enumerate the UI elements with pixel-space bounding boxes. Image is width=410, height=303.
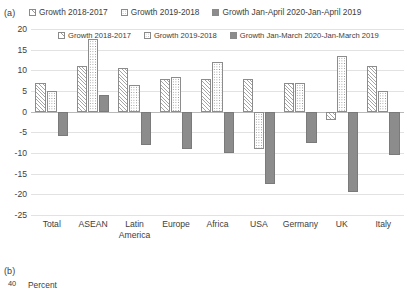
- bar[interactable]: [284, 83, 294, 112]
- bar[interactable]: [88, 39, 98, 111]
- legend-swatch-solid-icon: [212, 9, 219, 16]
- panel-b-axis-value: 40: [8, 279, 16, 288]
- x-axis-tick-label: UK: [321, 219, 362, 230]
- x-axis-tick-label: Total: [31, 219, 72, 230]
- x-axis-tick-label: Germany: [280, 219, 321, 230]
- x-axis-tick-label: LatinAmerica: [114, 219, 155, 241]
- y-axis-tick-label: -10: [15, 149, 27, 158]
- bar-group: [197, 29, 238, 215]
- legend-item[interactable]: Growth 2019-2018: [144, 31, 217, 40]
- bar[interactable]: [47, 91, 57, 112]
- bar[interactable]: [295, 83, 305, 112]
- bar[interactable]: [129, 85, 139, 112]
- bar[interactable]: [254, 112, 264, 149]
- legend-item[interactable]: Growth 2019-2018: [121, 7, 200, 17]
- panel-b-tag: (b): [4, 266, 15, 276]
- bar[interactable]: [367, 66, 377, 111]
- panel-a-tag: (a): [4, 8, 15, 18]
- panel-b-axis-unit: Percent: [28, 280, 57, 290]
- y-axis-tick-label: 5: [22, 87, 27, 96]
- bar[interactable]: [243, 79, 253, 112]
- bar[interactable]: [35, 83, 45, 112]
- bar[interactable]: [99, 95, 109, 112]
- panel-b: (b): [0, 258, 410, 303]
- bar[interactable]: [212, 62, 222, 112]
- bar[interactable]: [182, 112, 192, 149]
- chart-legend-a: Growth 2018-2017 Growth 2019-2018 Growth…: [29, 7, 361, 17]
- x-axis-tick-label: Italy: [363, 219, 404, 230]
- bar[interactable]: [118, 68, 128, 111]
- x-axis-tick-label: Europe: [155, 219, 196, 230]
- x-axis-tick-label: ASEAN: [72, 219, 113, 230]
- x-axis-tick-label: Africa: [197, 219, 238, 230]
- bar-group: [72, 29, 113, 215]
- bar-group: [321, 29, 362, 215]
- legend-item[interactable]: Growth 2018-2017: [58, 31, 131, 40]
- bar[interactable]: [77, 66, 87, 111]
- bar[interactable]: [265, 112, 275, 184]
- bar[interactable]: [326, 112, 336, 120]
- gridline: [31, 215, 404, 216]
- legend-item[interactable]: Growth 2018-2017: [29, 7, 108, 17]
- x-axis-labels: TotalASEANLatinAmericaEuropeAfricaUSAGer…: [31, 219, 404, 249]
- y-axis-tick-label: -15: [15, 170, 27, 179]
- chart-legend-b: Growth 2018-2017 Growth 2019-2018 Growth…: [58, 31, 379, 40]
- y-axis-tick-label: -5: [19, 128, 27, 137]
- bar[interactable]: [224, 112, 234, 153]
- legend-swatch-diagonal-hatch-icon: [58, 32, 65, 39]
- bar[interactable]: [306, 112, 316, 143]
- legend-label: Growth Jan-March 2020-Jan-March 2019: [240, 31, 379, 40]
- bar[interactable]: [58, 112, 68, 137]
- bar-group: [114, 29, 155, 215]
- chart-plot-area: [31, 29, 404, 215]
- legend-label: Growth 2018-2017: [68, 31, 131, 40]
- bar[interactable]: [201, 79, 211, 112]
- chart-bar-groups: [31, 29, 404, 215]
- legend-label: Growth 2019-2018: [154, 31, 217, 40]
- bar-group: [363, 29, 404, 215]
- bar[interactable]: [348, 112, 358, 193]
- legend-swatch-dotted-icon: [144, 32, 151, 39]
- y-axis-tick-label: 0: [22, 108, 27, 117]
- bar[interactable]: [389, 112, 399, 155]
- y-axis-tick-label: -20: [15, 190, 27, 199]
- bar[interactable]: [378, 91, 388, 112]
- legend-swatch-dotted-icon: [121, 9, 128, 16]
- legend-item[interactable]: Growth Jan-March 2020-Jan-March 2019: [230, 31, 379, 40]
- bar[interactable]: [141, 112, 151, 145]
- x-axis-tick-label: USA: [238, 219, 279, 230]
- legend-item[interactable]: Growth Jan-April 2020-Jan-April 2019: [212, 7, 361, 17]
- bar-group: [280, 29, 321, 215]
- y-axis-tick-label: -25: [15, 211, 27, 220]
- y-axis-tick-label: 15: [17, 46, 27, 55]
- bar[interactable]: [337, 56, 347, 112]
- y-axis-labels: 20151050-5-10-15-20-25: [0, 29, 27, 215]
- y-axis-tick-label: 20: [17, 25, 27, 34]
- legend-label: Growth 2019-2018: [131, 7, 200, 17]
- bar-group: [238, 29, 279, 215]
- bar-group: [31, 29, 72, 215]
- bar-group: [155, 29, 196, 215]
- legend-swatch-solid-icon: [230, 32, 237, 39]
- bar[interactable]: [160, 79, 170, 112]
- y-axis-tick-label: 10: [17, 66, 27, 75]
- bar[interactable]: [171, 77, 181, 112]
- legend-label: Growth Jan-April 2020-Jan-April 2019: [222, 7, 361, 17]
- legend-swatch-diagonal-hatch-icon: [29, 9, 36, 16]
- legend-label: Growth 2018-2017: [39, 7, 108, 17]
